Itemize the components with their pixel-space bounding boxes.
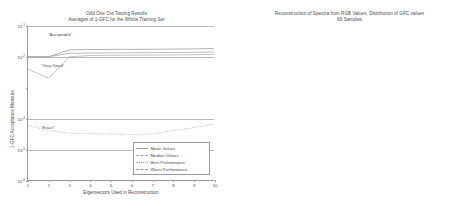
y-ticklabel-1e-2: 10-2 [18, 54, 25, 60]
x-ticklabel-2: 2 [48, 183, 50, 188]
y-ticklabel-1e-6: 10-6 [18, 178, 25, 184]
y-ticklabel-exp: -1 [22, 23, 25, 27]
left-chart-subtitle: Averages of 1-GFC for the Whole Training… [0, 17, 233, 23]
y-ticklabel-exp: -2 [22, 54, 25, 58]
x-tick-8 [173, 180, 174, 182]
legend-swatch-icon [136, 169, 148, 170]
legend-item-worst-performance[interactable]: Worst Performance [136, 166, 207, 173]
y-ticklabel-exp: -4 [22, 116, 25, 120]
left-chart-panel: Odd One Out Testing Results Averages of … [0, 0, 233, 205]
legend-item-mean-values[interactable]: Mean Values [136, 145, 207, 152]
x-tick-10 [215, 180, 216, 182]
y-ticklabel-exp: -6 [22, 178, 25, 182]
left-x-axis-label: Eigenvectors Used in Reconstruction [83, 190, 158, 195]
figure-canvas: Odd One Out Testing Results Averages of … [0, 0, 466, 205]
x-tick-4 [90, 180, 91, 182]
x-tick-3 [70, 180, 71, 182]
x-tick-1 [28, 180, 29, 182]
x-ticklabel-4: 4 [89, 183, 91, 188]
x-ticklabel-6: 6 [131, 183, 133, 188]
y-ticklabel-1e-4: 10-4 [18, 116, 25, 122]
legend-swatch-icon [136, 155, 148, 156]
legend-item-best-performance[interactable]: Best Performance [136, 159, 207, 166]
x-ticklabel-5: 5 [110, 183, 112, 188]
x-ticklabel-7: 7 [152, 183, 154, 188]
x-ticklabel-9: 9 [193, 183, 195, 188]
legend-label: Worst Performance [151, 167, 188, 172]
legend-label: Mean Values [151, 146, 176, 151]
series-worst-performance [28, 54, 214, 78]
legend-item-median-values[interactable]: Median Values [136, 152, 207, 159]
right-chart-subtitle: 66 Samples [233, 17, 466, 23]
x-tick-6 [132, 180, 133, 182]
legend-label: Median Values [151, 153, 179, 158]
x-ticklabel-10: 10 [213, 183, 218, 188]
legend-label: Best Performance [151, 160, 185, 165]
legend-swatch-icon [136, 162, 148, 163]
series-best-performance [28, 124, 214, 134]
x-tick-9 [194, 180, 195, 182]
x-tick-5 [111, 180, 112, 182]
left-chart-legend[interactable]: Mean Values Median Values Best Performan… [133, 142, 210, 175]
left-y-axis-label: 1-GFC Acceptance Measure [10, 90, 15, 148]
right-chart-panel: Reconstruction of Spectra from RGB Value… [233, 0, 466, 205]
x-tick-2 [49, 180, 50, 182]
y-ticklabel-1e-1: 10-1 [18, 23, 25, 29]
x-tick-7 [153, 180, 154, 182]
legend-swatch-icon [136, 148, 148, 149]
y-ticklabel-1e-5: 10-5 [18, 147, 25, 153]
y-ticklabel-exp: -5 [22, 147, 25, 151]
x-ticklabel-3: 3 [68, 183, 70, 188]
x-ticklabel-8: 8 [172, 183, 174, 188]
x-ticklabel-1: 1 [27, 183, 29, 188]
